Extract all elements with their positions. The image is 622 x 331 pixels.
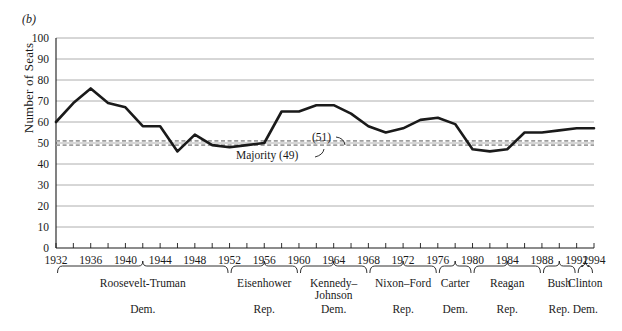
annotation-majority-49-leader [315,149,324,157]
era-party-7: Dem. [573,303,598,315]
annotation-majority-49-label: Majority (49) [236,149,298,162]
era-party-0: Dem. [130,303,155,315]
annotation-51-label: (51) [312,131,331,144]
era-name-2: Johnson [315,289,353,301]
era-name-7: Clinton [568,277,603,289]
y-tick-label-40: 40 [38,158,50,170]
line-chart: 0102030405060708090100193219361940194419… [0,0,622,331]
era-party-3: Rep. [392,303,414,316]
figure-panel-b: (b) Number of Seats 01020304050607080901… [0,0,622,331]
y-tick-label-100: 100 [32,32,50,44]
x-tick-label-1932: 1932 [45,254,68,266]
y-tick-label-10: 10 [38,221,50,233]
x-tick-label-1960: 1960 [287,254,310,266]
y-tick-label-30: 30 [38,179,50,191]
x-tick-label-1940: 1940 [114,254,137,266]
y-tick-label-80: 80 [38,74,50,86]
era-name-3: Nixon–Ford [375,277,431,289]
x-tick-label-1936: 1936 [79,254,102,266]
y-tick-label-20: 20 [38,200,50,212]
era-party-2: Dem. [321,303,346,315]
x-tick-label-1968: 1968 [357,254,380,266]
era-name-1: Eisenhower [237,277,291,289]
y-tick-label-60: 60 [38,116,50,128]
y-tick-label-50: 50 [38,137,50,149]
y-tick-label-0: 0 [43,242,49,254]
x-tick-label-1944: 1944 [149,254,172,266]
y-tick-label-90: 90 [38,53,50,65]
era-party-4: Dem. [443,303,468,315]
y-tick-label-70: 70 [38,95,50,107]
era-name-5: Reagan [490,277,525,290]
era-party-1: Rep. [254,303,276,316]
x-tick-label-1980: 1980 [461,254,484,266]
x-tick-label-1952: 1952 [218,254,241,266]
x-tick-label-1948: 1948 [183,254,206,266]
era-name-4: Carter [441,277,470,289]
era-party-5: Rep. [497,303,519,316]
x-tick-label-1988: 1988 [530,254,553,266]
x-tick-label-1976: 1976 [426,254,449,266]
era-name-0: Roosevelt-Truman [100,277,186,289]
era-party-6: Rep. [549,303,571,316]
